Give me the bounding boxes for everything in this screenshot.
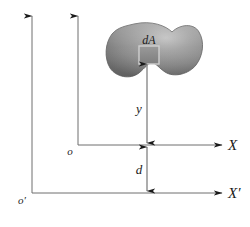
label-origin-o-prime: o′ [18, 194, 27, 206]
label-axis-x-prime: X′ [227, 185, 241, 201]
figure-canvas: dA y d X X′ o o′ [0, 0, 250, 227]
differential-area-element [139, 46, 159, 64]
parallel-axis-diagram: dA y d X X′ o o′ [0, 0, 250, 227]
label-origin-o: o [67, 145, 73, 157]
da-square [139, 46, 159, 64]
label-differential-area: dA [142, 33, 156, 47]
label-distance-y: y [134, 101, 142, 116]
label-axis-x: X [227, 137, 238, 153]
label-distance-d: d [136, 162, 143, 177]
